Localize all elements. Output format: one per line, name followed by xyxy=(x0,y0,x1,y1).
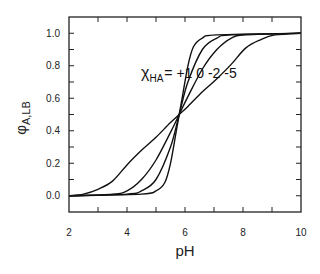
y-tick-label: 0.0 xyxy=(46,190,60,201)
curve-series-3 xyxy=(69,33,301,196)
curves xyxy=(69,33,301,196)
y-tick-label: 0.4 xyxy=(46,125,60,136)
y-axis-title: φA,LB xyxy=(12,101,32,135)
svg-text:φA,LB: φA,LB xyxy=(12,101,32,135)
ticks xyxy=(69,17,301,212)
y-tick-label: 0.2 xyxy=(46,158,60,169)
y-tick-label: 1.0 xyxy=(46,28,60,39)
y-axis-symbol: φ xyxy=(12,125,29,135)
chart: 2468100.00.20.40.60.81.0 pH φA,LB χHA= +… xyxy=(0,0,320,274)
x-tick-label: 6 xyxy=(182,227,188,238)
x-tick-label: 8 xyxy=(240,227,246,238)
x-axis-title: pH xyxy=(175,242,194,259)
x-tick-label: 2 xyxy=(66,227,72,238)
x-tick-label: 10 xyxy=(295,227,307,238)
curve-series-0 xyxy=(69,33,301,196)
y-tick-label: 0.8 xyxy=(46,60,60,71)
y-axis-subscript: A,LB xyxy=(20,101,32,125)
curve-series-2 xyxy=(69,33,301,196)
x-tick-label: 4 xyxy=(124,227,130,238)
y-tick-label: 0.6 xyxy=(46,93,60,104)
curve-series-1 xyxy=(69,33,301,196)
chi-values: = +1 0 -2 -5 xyxy=(164,65,237,81)
chi-subscript: HA xyxy=(149,73,163,84)
plot-frame xyxy=(69,17,301,212)
